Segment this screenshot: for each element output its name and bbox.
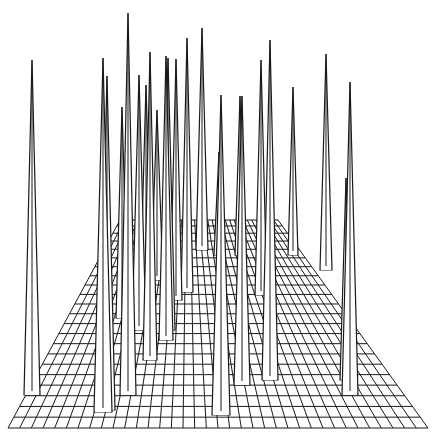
spike-base — [144, 356, 156, 360]
spike-base — [321, 266, 331, 270]
spike-base — [263, 376, 277, 380]
spike-base — [25, 391, 39, 395]
spike-base — [289, 251, 297, 255]
spike-base — [95, 408, 111, 412]
spike-base — [343, 391, 357, 395]
spike-base — [213, 411, 229, 415]
spike-base — [160, 336, 172, 340]
spike-base — [182, 288, 192, 292]
spike-base — [235, 381, 249, 385]
spike-base — [121, 391, 135, 395]
spike-series — [24, 13, 358, 415]
surface-plot — [0, 0, 442, 445]
spike-base — [197, 246, 207, 250]
